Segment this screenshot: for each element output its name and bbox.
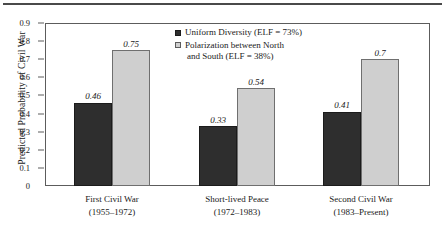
bar-group2-series0[interactable]	[323, 112, 361, 186]
bar-group2-series1[interactable]	[361, 59, 399, 186]
legend-entry-uniform-diversity[interactable]: Uniform Diversity (ELF = 73%)	[175, 27, 302, 39]
x-label-name: Short-lived Peace	[205, 194, 269, 204]
x-label-name: First Civil War	[85, 194, 139, 204]
chart-figure: Predicted Probability of Civil War 0.9 0…	[0, 0, 445, 229]
legend-swatch-icon	[175, 30, 181, 36]
x-axis-group-label-2: Second Civil War (1983–Present)	[329, 193, 393, 219]
x-label-name: Second Civil War	[329, 194, 393, 204]
chart-legend: Uniform Diversity (ELF = 73%) Polarizati…	[175, 27, 302, 63]
legend-label-line1: Polarization between North	[185, 40, 284, 50]
bar-group0-series1[interactable]	[112, 50, 150, 186]
bar-value-label: 0.46	[85, 91, 101, 101]
legend-swatch-icon	[175, 42, 181, 48]
bar-value-label: 0.7	[374, 48, 385, 58]
x-label-period: (1955–1972)	[85, 206, 139, 219]
bar-group0-series0[interactable]	[74, 103, 112, 186]
bar-group1-series1[interactable]	[237, 88, 275, 186]
legend-label: Polarization between North and South (EL…	[185, 40, 284, 63]
x-label-period: (1983–Present)	[329, 206, 393, 219]
x-label-period: (1972–1983)	[205, 206, 269, 219]
bar-group1-series0[interactable]	[199, 126, 237, 186]
legend-label-line2: and South (ELF = 38%)	[185, 51, 284, 63]
bar-value-label: 0.54	[248, 77, 264, 87]
bar-value-label: 0.75	[123, 39, 139, 49]
bar-value-label: 0.33	[210, 115, 226, 125]
x-axis-group-label-0: First Civil War (1955–1972)	[85, 193, 139, 219]
bar-value-label: 0.41	[334, 100, 350, 110]
legend-entry-polarization[interactable]: Polarization between North and South (EL…	[175, 40, 302, 63]
x-axis-group-label-1: Short-lived Peace (1972–1983)	[205, 193, 269, 219]
legend-label: Uniform Diversity (ELF = 73%)	[185, 27, 302, 39]
